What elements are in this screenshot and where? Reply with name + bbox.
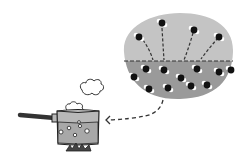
oxygen-atom xyxy=(161,67,168,74)
oxygen-atom xyxy=(136,34,143,41)
oxygen-atom xyxy=(191,27,198,34)
oxygen-atom xyxy=(143,66,150,73)
arrow-head-icon xyxy=(106,116,110,124)
pointer-arrow xyxy=(106,100,163,124)
evaporation-diagram xyxy=(0,0,247,161)
oxygen-atom xyxy=(165,85,172,92)
bubble xyxy=(85,129,89,133)
oxygen-atom xyxy=(131,74,138,81)
oxygen-atom xyxy=(228,67,235,74)
bubble xyxy=(78,124,81,127)
oxygen-atom xyxy=(146,86,153,93)
oxygen-atom xyxy=(178,75,185,82)
oxygen-atom xyxy=(194,66,201,73)
oxygen-atom xyxy=(159,20,166,27)
saucepan xyxy=(20,110,99,152)
oxygen-atom xyxy=(204,82,211,89)
arrow-line xyxy=(110,100,163,120)
bubble xyxy=(67,126,71,130)
air-region xyxy=(110,0,247,61)
bubble xyxy=(59,130,63,134)
pot-handle xyxy=(20,115,55,118)
oxygen-atom xyxy=(188,83,195,90)
bubble xyxy=(78,121,81,124)
pot-water xyxy=(58,122,98,144)
magnified-view xyxy=(110,0,247,111)
oxygen-atom xyxy=(216,34,223,41)
bubble xyxy=(73,133,76,136)
steam-puff-upper xyxy=(80,79,103,94)
oxygen-atom xyxy=(216,69,223,76)
